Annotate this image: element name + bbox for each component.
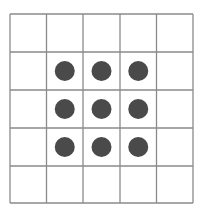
dot bbox=[55, 99, 75, 119]
dot bbox=[92, 61, 112, 81]
dot bbox=[128, 61, 148, 81]
dot bbox=[92, 137, 112, 157]
dot bbox=[55, 61, 75, 81]
dots bbox=[55, 61, 149, 157]
dot bbox=[128, 99, 148, 119]
dot bbox=[128, 137, 148, 157]
dot bbox=[55, 137, 75, 157]
dot-grid-diagram bbox=[0, 0, 202, 212]
dot bbox=[92, 99, 112, 119]
